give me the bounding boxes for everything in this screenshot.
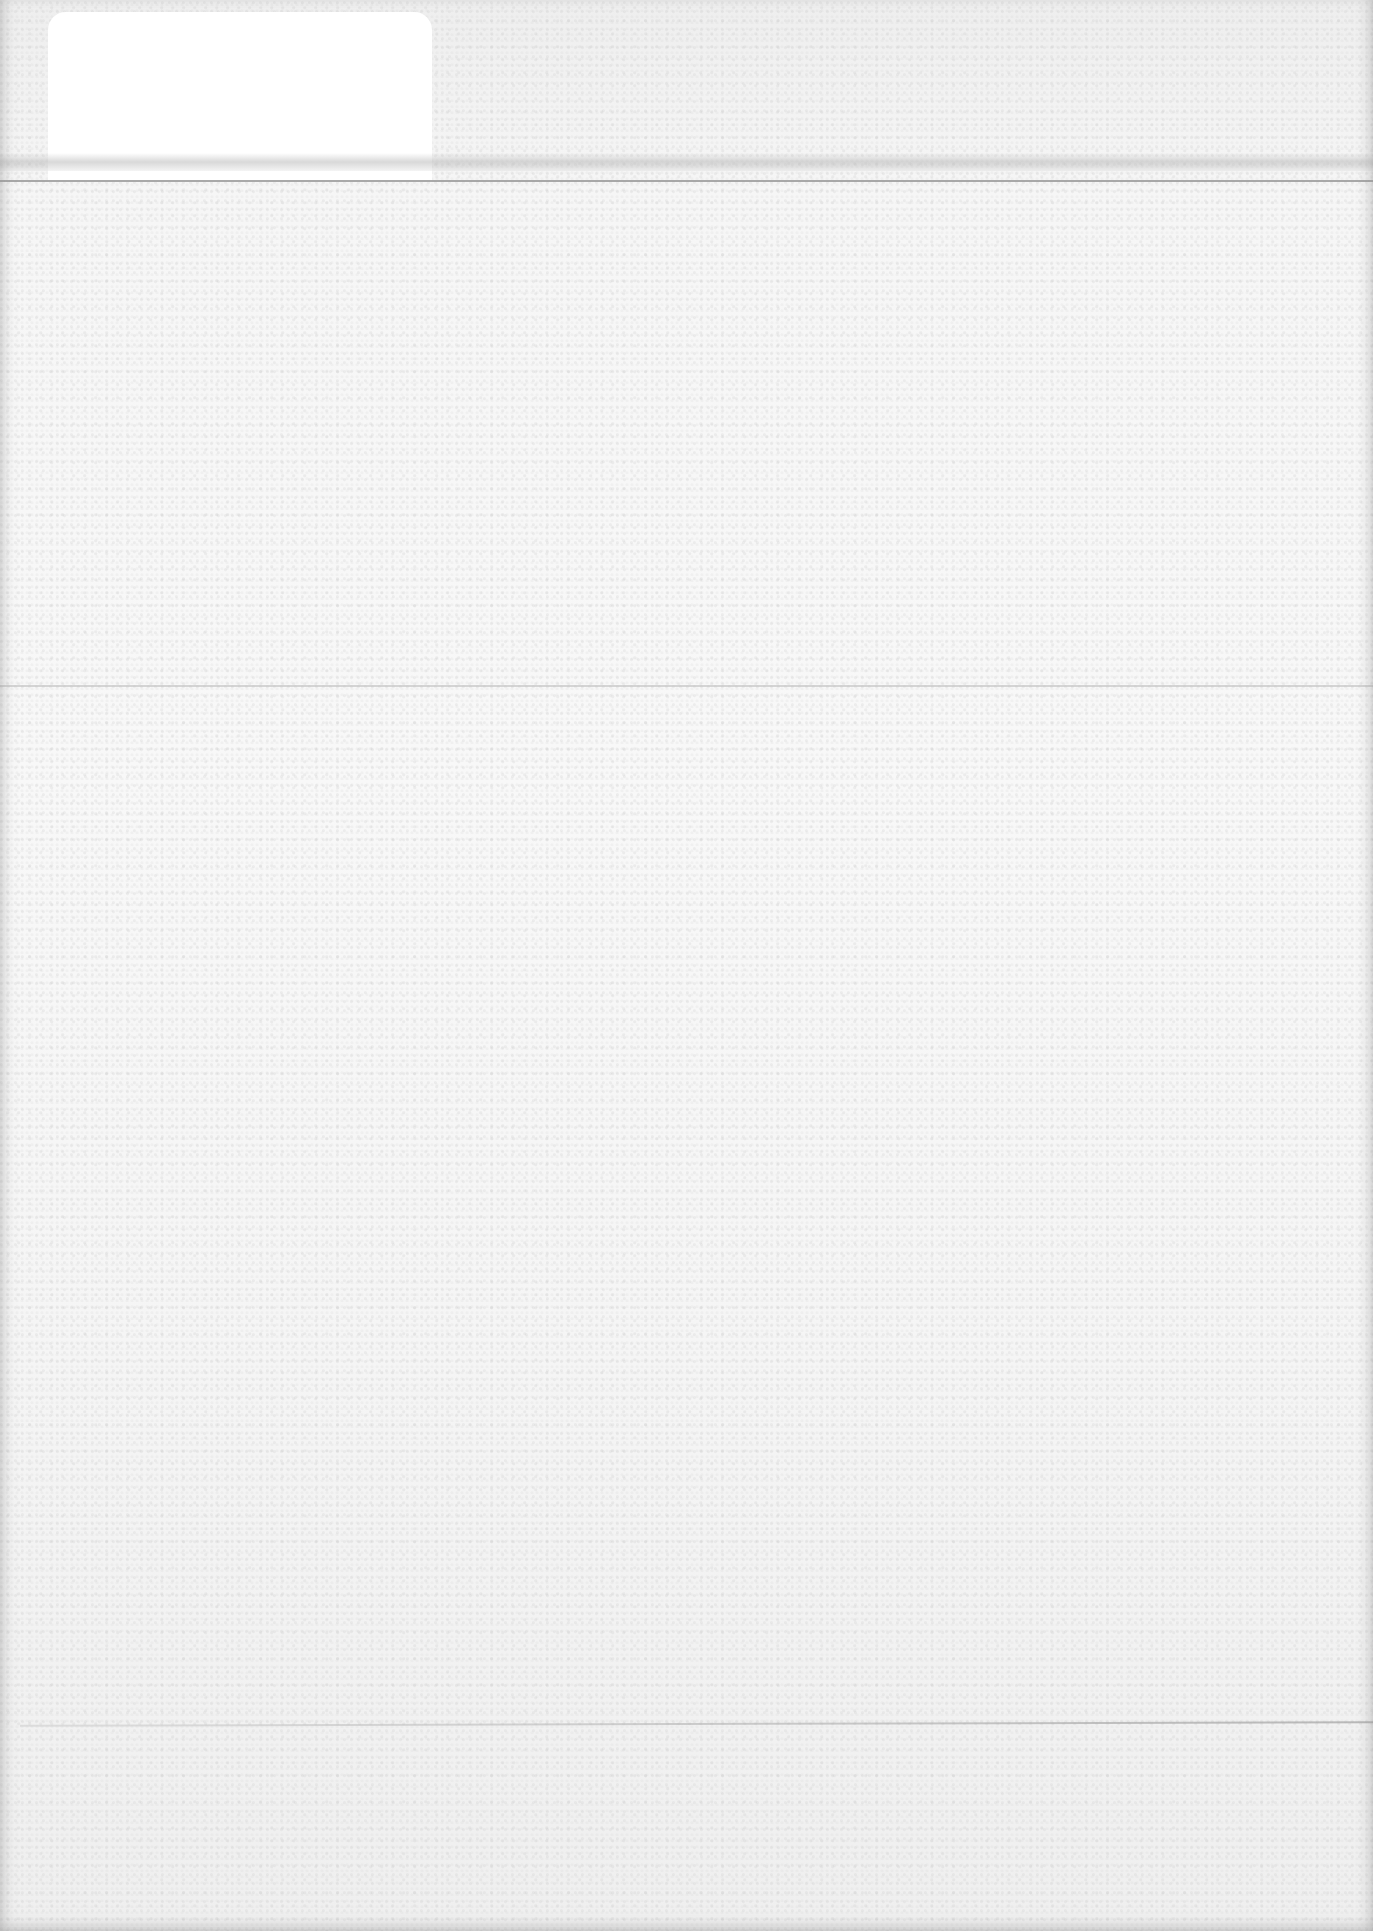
fold-line	[0, 685, 1373, 687]
paper-background	[0, 0, 1373, 1931]
header-band	[0, 153, 1373, 171]
header-rule	[0, 180, 1373, 182]
